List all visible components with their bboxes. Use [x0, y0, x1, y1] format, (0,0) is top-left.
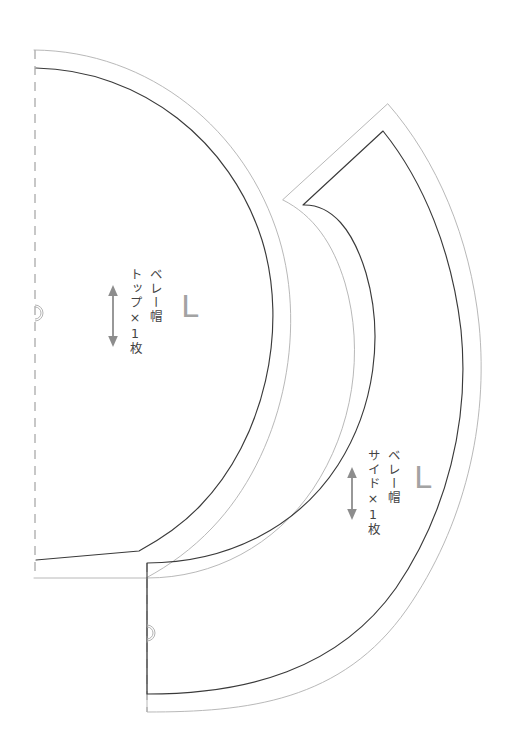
- top-piece-garment-label: ベレー帽: [148, 268, 161, 324]
- pattern-drawing: [0, 0, 520, 751]
- pattern-sheet: トップ×1枚 ベレー帽 L サイド×1枚 ベレー帽 L: [0, 0, 520, 751]
- side-piece-size-label: L: [414, 462, 431, 493]
- side-piece-notch-inner-icon: [147, 627, 153, 639]
- side-piece-outline: [147, 104, 481, 712]
- top-piece-grain-line: [108, 285, 118, 347]
- top-piece-size-label: L: [181, 291, 198, 322]
- side-piece-garment-label: ベレー帽: [386, 449, 399, 505]
- top-piece-notch-inner-icon: [35, 307, 41, 319]
- side-piece-part-label: サイド×1枚: [366, 449, 379, 537]
- top-piece-part-label: トップ×1枚: [128, 268, 141, 356]
- side-piece-grain-line: [347, 467, 357, 520]
